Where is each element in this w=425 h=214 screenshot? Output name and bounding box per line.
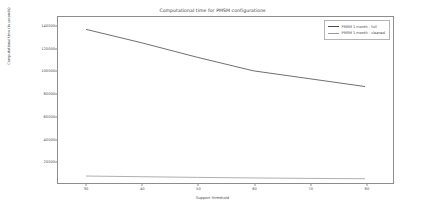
x-tick-mark (254, 183, 255, 186)
x-tick-label: 60 (252, 187, 257, 191)
x-tick-mark (142, 183, 143, 186)
x-tick-mark (310, 183, 311, 186)
legend-label: PMSM 1 month - full (342, 25, 377, 29)
x-axis-label: Support threshold (0, 196, 425, 200)
legend-swatch (328, 26, 339, 27)
x-tick-label: 30 (84, 187, 89, 191)
x-tick-mark (86, 183, 87, 186)
y-tick-label: 100000 (41, 69, 55, 73)
legend-item: PMSM 1 month - cleaned (328, 30, 385, 37)
chart-figure: Computational time for PMSM configuratio… (0, 0, 425, 214)
x-tick-mark (198, 183, 199, 186)
x-tick-label: 80 (365, 187, 370, 191)
chart-legend: PMSM 1 month - fullPMSM 1 month - cleane… (324, 20, 390, 40)
x-tick-mark (366, 183, 367, 186)
legend-swatch (328, 33, 339, 34)
y-tick-label: 140000 (41, 24, 55, 28)
y-axis-label: Computational time (in seconds) (7, 0, 11, 86)
series-line (86, 176, 365, 179)
y-tick-label: 80000 (44, 92, 55, 96)
x-tick-label: 70 (308, 187, 313, 191)
chart-title: Computational time for PMSM configuratio… (0, 8, 425, 13)
legend-label: PMSM 1 month - cleaned (342, 31, 385, 35)
series-lines (58, 17, 393, 183)
plot-area: 20000400006000080000100000120000140000 3… (57, 16, 394, 184)
x-tick-label: 40 (140, 187, 145, 191)
x-tick-label: 50 (196, 187, 201, 191)
y-tick-label: 40000 (44, 138, 55, 142)
y-tick-label: 60000 (44, 115, 55, 119)
y-tick-label: 20000 (44, 160, 55, 164)
y-tick-label: 120000 (41, 47, 55, 51)
